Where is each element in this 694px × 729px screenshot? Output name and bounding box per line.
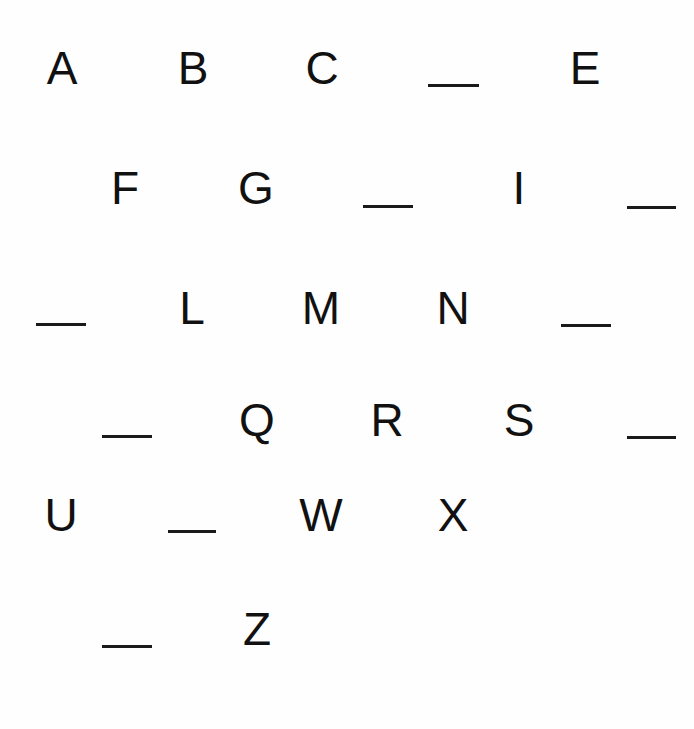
letter-g: G	[226, 165, 286, 211]
letter-s: S	[489, 397, 549, 443]
missing-letter-blank	[36, 323, 86, 326]
letter-l: L	[162, 285, 222, 331]
letter-q: Q	[227, 397, 287, 443]
alphabet-worksheet: ABCEFGILMNQRSUWXZ	[0, 0, 694, 729]
letter-z: Z	[227, 606, 287, 652]
letter-e: E	[555, 45, 615, 91]
letter-b: B	[163, 45, 223, 91]
missing-letter-blank	[102, 645, 152, 648]
missing-letter-blank	[561, 324, 611, 327]
letter-n: N	[423, 285, 483, 331]
missing-letter-blank	[627, 436, 676, 439]
letter-a: A	[32, 45, 92, 91]
letter-c: C	[292, 45, 352, 91]
missing-letter-blank	[102, 435, 152, 438]
letter-x: X	[423, 492, 483, 538]
letter-f: F	[95, 165, 155, 211]
letter-u: U	[31, 492, 91, 538]
letter-r: R	[357, 397, 417, 443]
missing-letter-blank	[428, 84, 479, 87]
missing-letter-blank	[168, 530, 216, 533]
letter-w: W	[291, 492, 351, 538]
missing-letter-blank	[627, 206, 676, 209]
letter-m: M	[291, 285, 351, 331]
missing-letter-blank	[363, 205, 413, 208]
letter-i: I	[489, 165, 549, 211]
